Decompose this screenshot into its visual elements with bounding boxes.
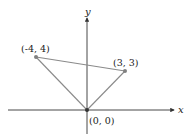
point-neg4-4: [34, 55, 38, 59]
triangle: [36, 57, 125, 110]
segment-a-b: [36, 57, 125, 71]
point-label-neg4-4: (-4, 4): [21, 43, 50, 54]
point-3-3: [123, 69, 127, 73]
point-origin: [85, 108, 89, 112]
y-axis-label: y: [84, 6, 91, 17]
segment-b-origin: [87, 71, 125, 110]
segment-a-origin: [36, 57, 87, 110]
point-label-origin: (0, 0): [89, 115, 115, 126]
x-axis-label: x: [178, 104, 184, 115]
point-label-3-3: (3, 3): [113, 57, 139, 68]
coordinate-plane: y x (-4, 4) (3, 3) (0, 0): [0, 0, 192, 138]
